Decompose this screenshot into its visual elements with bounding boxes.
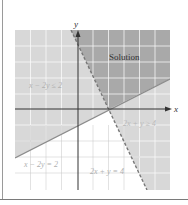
line-2-label: 2x + y = 4 xyxy=(90,167,124,176)
x-axis-label: x xyxy=(173,104,178,114)
inequality-1-label: x − 2y ≤ 2 xyxy=(28,81,62,90)
inequality-2-label: 2x + y ≥ 4 xyxy=(123,119,156,128)
solution-label: Solution xyxy=(109,52,140,62)
y-axis-label: y xyxy=(73,19,78,29)
line-1-label: x − 2y = 2 xyxy=(23,160,58,169)
inequality-graph: y x Solution x − 2y ≤ 2 2x + y ≥ 4 x − 2… xyxy=(0,0,188,205)
